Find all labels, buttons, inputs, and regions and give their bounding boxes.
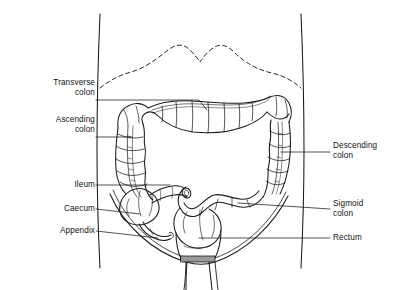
label-ascending-colon: Ascending colon [5, 115, 95, 135]
label-descending-colon: Descending colon [333, 141, 403, 161]
label-appendix: Appendix [5, 226, 95, 236]
label-caecum: Caecum [5, 204, 95, 214]
label-sigmoid-colon: Sigmoid colon [333, 199, 403, 219]
label-ileum: Ileum [5, 180, 95, 190]
label-transverse-colon: Transverse colon [5, 78, 95, 98]
label-rectum: Rectum [333, 233, 403, 243]
